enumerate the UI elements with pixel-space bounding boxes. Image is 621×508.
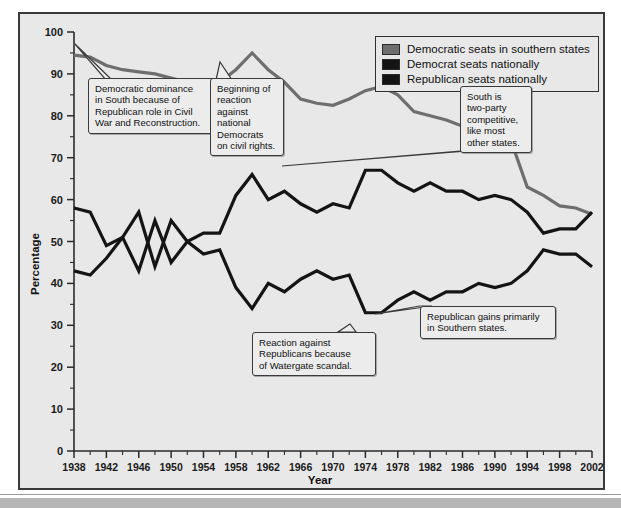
footer-divider: [0, 494, 621, 495]
callout-civil-rights-reaction: Beginning of reaction against national D…: [210, 78, 284, 156]
svg-text:30: 30: [51, 319, 63, 331]
svg-text:1990: 1990: [483, 461, 507, 473]
svg-text:1982: 1982: [418, 461, 442, 473]
svg-text:40: 40: [51, 277, 63, 289]
callout-civil-rights-reaction-text: Beginning of reaction against national D…: [217, 83, 277, 151]
callout-democratic-dominance: Democratic dominance in South because of…: [88, 78, 224, 134]
svg-text:1998: 1998: [548, 461, 572, 473]
legend-label-south: Democratic seats in southern states: [407, 43, 590, 55]
legend-item-democrat-national: Democrat seats nationally: [382, 57, 590, 71]
chart-figure: 0102030405060708090100193819421946195019…: [18, 12, 605, 490]
svg-text:1974: 1974: [354, 461, 378, 473]
legend-swatch-south: [382, 44, 400, 55]
svg-text:60: 60: [51, 194, 63, 206]
svg-text:1970: 1970: [321, 461, 345, 473]
svg-text:1994: 1994: [516, 461, 540, 473]
footer-band: [0, 498, 621, 508]
svg-text:100: 100: [45, 26, 63, 38]
callout-two-party-south-text: South is two-party competitive, like mos…: [467, 91, 525, 148]
svg-text:50: 50: [51, 236, 63, 248]
legend-item-south: Democratic seats in southern states: [382, 42, 590, 56]
chart-legend: Democratic seats in southern states Demo…: [375, 36, 599, 92]
svg-text:80: 80: [51, 110, 63, 122]
svg-text:20: 20: [51, 361, 63, 373]
svg-text:1954: 1954: [192, 461, 216, 473]
legend-label-democrat-national: Democrat seats nationally: [407, 58, 539, 70]
legend-swatch-republican-national: [382, 74, 400, 85]
svg-text:2002: 2002: [580, 461, 604, 473]
svg-text:70: 70: [51, 152, 63, 164]
chart-screenshot: 0102030405060708090100193819421946195019…: [0, 0, 621, 508]
svg-text:1962: 1962: [257, 461, 281, 473]
svg-text:1986: 1986: [451, 461, 475, 473]
svg-text:1938: 1938: [62, 461, 86, 473]
legend-swatch-democrat-national: [382, 59, 400, 70]
svg-text:1978: 1978: [386, 461, 410, 473]
callout-democratic-dominance-text: Democratic dominance in South because of…: [95, 83, 217, 129]
callout-watergate: Reaction against Republicans because of …: [252, 332, 376, 376]
legend-item-republican-national: Republican seats nationally: [382, 72, 590, 86]
svg-text:1946: 1946: [127, 461, 151, 473]
svg-text:1966: 1966: [289, 461, 313, 473]
svg-text:1950: 1950: [159, 461, 183, 473]
svg-text:1942: 1942: [95, 461, 119, 473]
callout-watergate-text: Reaction against Republicans because of …: [259, 337, 369, 371]
callout-two-party-south: South is two-party competitive, like mos…: [460, 86, 532, 153]
x-axis-title: Year: [308, 474, 333, 486]
svg-text:10: 10: [51, 403, 63, 415]
svg-text:90: 90: [51, 68, 63, 80]
svg-text:0: 0: [57, 445, 63, 457]
callout-republican-gains-text: Republican gains primarily in Southern s…: [427, 311, 549, 334]
legend-label-republican-national: Republican seats nationally: [407, 73, 547, 85]
svg-text:1958: 1958: [224, 461, 248, 473]
y-axis-title: Percentage: [29, 233, 41, 295]
callout-republican-gains: Republican gains primarily in Southern s…: [420, 306, 556, 339]
